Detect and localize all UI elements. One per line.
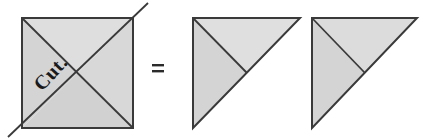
triangle-left-group <box>193 18 300 128</box>
equals-bar-top <box>152 64 164 66</box>
figure-canvas: Cut. <box>0 0 425 138</box>
equals-bar-bottom <box>152 70 164 72</box>
square-group: Cut. <box>8 3 148 137</box>
equals-sign <box>152 64 164 72</box>
cut-and-rearrange-figure: Cut. <box>0 0 425 138</box>
triangle-right-group <box>312 18 417 128</box>
